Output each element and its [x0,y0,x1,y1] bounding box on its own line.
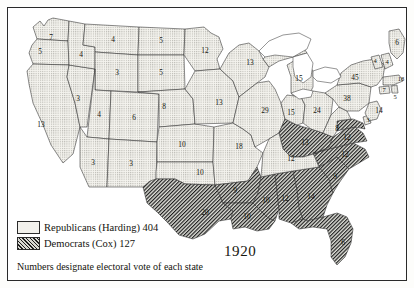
svg-text:13: 13 [301,138,309,147]
svg-text:9: 9 [233,186,237,195]
svg-text:38: 38 [343,94,351,103]
svg-text:14: 14 [375,106,383,115]
svg-text:3: 3 [115,68,119,77]
svg-text:5: 5 [159,36,163,45]
svg-text:3: 3 [129,159,133,168]
svg-text:12: 12 [341,150,349,159]
state-OR [29,39,69,65]
svg-text:9: 9 [333,172,337,181]
svg-text:6: 6 [341,238,345,247]
map-legend: Republicans (Harding) 404 Democrats (Cox… [17,221,209,253]
svg-text:12: 12 [343,133,351,142]
legend-label-democrat: Democrats (Cox) 127 [44,238,135,249]
svg-text:3: 3 [366,116,369,123]
svg-text:4: 4 [97,110,101,119]
svg-text:6: 6 [395,38,399,47]
svg-text:5: 5 [38,47,42,56]
svg-text:29: 29 [261,106,269,115]
svg-text:7: 7 [49,33,53,42]
legend-row-republican: Republicans (Harding) 404 [17,221,209,234]
svg-text:4: 4 [111,35,115,44]
svg-text:13: 13 [37,120,45,129]
svg-text:4: 4 [79,50,83,59]
year-label: 1920 [224,243,256,260]
svg-text:12: 12 [201,46,209,55]
legend-label-republican: Republicans (Harding) 404 [44,222,158,233]
svg-text:18: 18 [398,75,405,82]
svg-text:6: 6 [132,113,136,122]
svg-text:10: 10 [178,140,186,149]
svg-text:12: 12 [281,194,289,203]
svg-text:24: 24 [313,106,321,115]
svg-text:3: 3 [91,158,95,167]
svg-text:15: 15 [295,74,303,83]
svg-text:8: 8 [335,124,339,133]
svg-text:3: 3 [76,94,80,103]
svg-text:14: 14 [307,192,315,201]
electoral-map-figure: 7 5 13 3 4 4 3 4 3 3 6 5 5 8 10 10 20 12… [0,0,414,288]
svg-text:5: 5 [393,93,396,100]
svg-text:13: 13 [246,58,254,67]
democrat-swatch-icon [17,237,40,250]
svg-text:45: 45 [351,73,359,82]
svg-text:12: 12 [287,154,295,163]
legend-row-democrat: Democrats (Cox) 127 [17,237,209,250]
legend-note: Numbers designate electoral vote of each… [17,261,203,272]
svg-text:10: 10 [243,212,251,221]
svg-text:13: 13 [215,98,223,107]
state-RI [391,85,398,93]
svg-text:5: 5 [159,68,163,77]
svg-text:10: 10 [262,196,270,205]
republican-swatch-icon [17,221,40,234]
svg-text:8: 8 [162,102,166,111]
svg-text:18: 18 [235,142,243,151]
svg-text:20: 20 [201,208,209,217]
svg-text:10: 10 [196,168,204,177]
svg-text:15: 15 [287,108,295,117]
